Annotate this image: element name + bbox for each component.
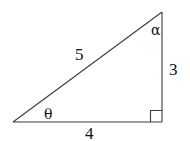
right-angle-marker-icon bbox=[151, 111, 163, 123]
hypotenuse-line bbox=[13, 12, 162, 122]
base-angle-label: θ bbox=[44, 107, 52, 121]
apex-angle-label: α bbox=[151, 23, 160, 37]
vertical-leg-length-label: 3 bbox=[169, 61, 178, 78]
right-triangle-diagram: 5 3 4 α θ bbox=[0, 0, 190, 141]
hypotenuse-length-label: 5 bbox=[75, 46, 84, 63]
triangle-graphic bbox=[0, 0, 190, 141]
horizontal-leg-length-label: 4 bbox=[85, 125, 94, 141]
